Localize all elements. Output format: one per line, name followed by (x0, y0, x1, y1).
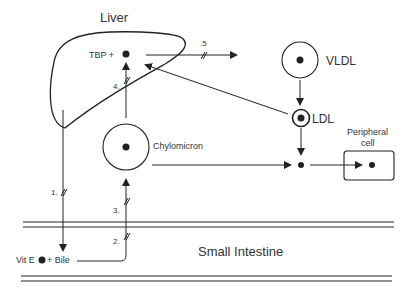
vit-e-dot (39, 257, 46, 264)
chylomicron-label: Chylomicron (153, 141, 203, 151)
step-3-label: 3. (113, 206, 120, 215)
vit-e-label: Vit E (16, 255, 35, 265)
step-2-label: 2. (113, 237, 120, 246)
junction-dot (298, 162, 304, 168)
tbp-label: TBP + (89, 50, 114, 60)
ldl-label: LDL (312, 112, 334, 126)
peripheral-cell-label-1: Peripheral (347, 127, 388, 137)
bile-label: + Bile (47, 255, 70, 265)
step-1-label: 1. (51, 188, 58, 197)
step-4-label: 4. (113, 82, 120, 91)
small-intestine-label: Small Intestine (198, 244, 283, 259)
vitamin-e-transport-diagram: Liver TBP + .5 VLDL LDL 4. Chylomicron P… (0, 0, 417, 291)
vldl-label: VLDL (326, 54, 356, 68)
liver-outline (50, 32, 185, 128)
step-5-label: .5 (200, 39, 207, 48)
liver-label: Liver (100, 10, 129, 25)
tbp-dot (123, 51, 130, 58)
peripheral-cell-label-2: cell (361, 138, 375, 148)
